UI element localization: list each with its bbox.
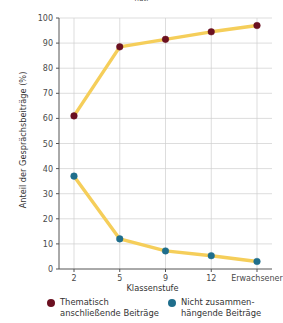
- chart-figure: nut. 0102030405060708090100 25912Erwachs…: [0, 0, 283, 323]
- grid-lines: [59, 18, 272, 269]
- svg-text:60: 60: [43, 114, 53, 123]
- x-axis-title: Klassenstufe: [40, 283, 265, 293]
- svg-text:80: 80: [43, 64, 53, 73]
- svg-text:2: 2: [71, 274, 76, 283]
- line-chart-plot: 0102030405060708090100 25912Erwachsener: [0, 0, 283, 323]
- svg-text:30: 30: [43, 190, 53, 199]
- svg-text:70: 70: [43, 89, 53, 98]
- svg-text:100: 100: [38, 14, 53, 23]
- svg-text:12: 12: [206, 274, 216, 283]
- svg-text:Erwachsener: Erwachsener: [231, 274, 283, 283]
- chart-legend: Thematisch anschließende Beiträge Nicht …: [0, 296, 283, 323]
- legend-item-label: Nicht zusammen- hängende Beiträge: [181, 297, 261, 319]
- svg-text:50: 50: [43, 140, 53, 149]
- svg-text:20: 20: [43, 215, 53, 224]
- x-tick-labels: 25912Erwachsener: [71, 274, 283, 283]
- y-tick-labels: 0102030405060708090100: [38, 14, 53, 274]
- legend-marker-dot: [168, 299, 176, 307]
- svg-text:9: 9: [163, 274, 168, 283]
- svg-text:5: 5: [117, 274, 122, 283]
- svg-text:10: 10: [43, 240, 53, 249]
- y-axis-title: Anteil der Gesprächsbeiträge (%): [18, 40, 28, 240]
- legend-item-label: Thematisch anschließende Beiträge: [60, 297, 159, 319]
- svg-text:40: 40: [43, 165, 53, 174]
- svg-text:0: 0: [48, 265, 53, 274]
- svg-text:90: 90: [43, 39, 53, 48]
- legend-item-thematisch: Thematisch anschließende Beiträge: [47, 297, 159, 319]
- legend-marker-dot: [47, 299, 55, 307]
- legend-item-nicht-zusammenhaengend: Nicht zusammen- hängende Beiträge: [168, 297, 261, 319]
- tick-marks: [56, 18, 257, 272]
